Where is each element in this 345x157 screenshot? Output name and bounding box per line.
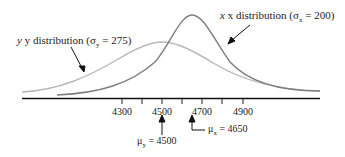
y-dist-tail: = 275): [99, 34, 131, 46]
tick-label: 4500: [152, 106, 172, 117]
y-label-arrow: [71, 47, 82, 68]
y-distribution-curve: [22, 42, 320, 92]
y-dist-text: y distribution (σ: [25, 34, 96, 46]
mu-x-value: = 4650: [217, 123, 248, 134]
x-distribution-label: x x distribution (σx = 200): [220, 9, 334, 24]
x-label-arrow: [232, 25, 250, 40]
x-dist-tail: = 200): [302, 9, 334, 21]
tick-label: 4300: [112, 106, 132, 117]
x-dist-text: x distribution (σ: [228, 9, 299, 21]
mu-y-value: = 4500: [146, 135, 177, 146]
x-distribution-curve: [57, 15, 320, 95]
mu-x-label: μx = 4650: [208, 123, 248, 137]
tick-label: 4700: [192, 106, 212, 117]
tick-label: 4900: [233, 106, 253, 117]
y-distribution-label: y y distribution (σy = 275): [17, 34, 131, 49]
axis-ticks: [122, 99, 243, 104]
mu-y-label: μy = 4500: [137, 135, 177, 149]
